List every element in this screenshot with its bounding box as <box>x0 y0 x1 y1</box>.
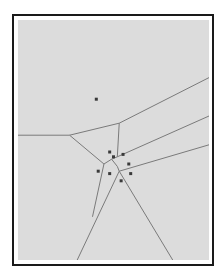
voronoi-site-point <box>122 153 125 156</box>
voronoi-edge <box>117 166 119 171</box>
diagram-panel <box>18 20 209 260</box>
voronoi-site-point <box>95 98 98 101</box>
voronoi-edge <box>112 159 118 166</box>
voronoi-edge <box>119 145 209 171</box>
voronoi-site-point <box>127 163 130 166</box>
voronoi-edge <box>70 135 104 164</box>
voronoi-site-point <box>120 179 123 182</box>
diagram-frame <box>12 14 214 266</box>
voronoi-site-point <box>129 172 132 175</box>
voronoi-edge <box>117 123 119 157</box>
voronoi-edge <box>70 123 120 135</box>
voronoi-edge <box>77 171 119 260</box>
voronoi-site-point <box>112 155 115 158</box>
voronoi-site-point <box>97 170 100 173</box>
voronoi-edge <box>104 159 112 164</box>
voronoi-site-point <box>108 151 111 154</box>
voronoi-edges <box>18 78 209 260</box>
voronoi-diagram <box>18 20 209 260</box>
voronoi-edge <box>119 171 172 260</box>
voronoi-edge <box>117 116 209 157</box>
voronoi-sites <box>95 98 132 183</box>
voronoi-edge <box>119 78 209 124</box>
voronoi-site-point <box>108 172 111 175</box>
